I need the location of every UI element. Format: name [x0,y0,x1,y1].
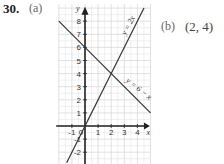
line-graph: -101234-2-112345678xyy = 2xy = 6 − x [0,0,224,164]
x-tick-label: 3 [122,128,127,137]
y-axis-label: y [75,4,80,13]
y-tick-label: 5 [77,57,82,66]
series-label-y-6-minus-x: y = 6 − x [124,75,154,101]
y-tick-label: 3 [77,83,82,92]
y-tick-label: -2 [74,148,82,157]
x-axis-label: x [146,128,151,137]
x-tick-label: 1 [96,128,101,137]
y-tick-label: 2 [77,96,82,105]
y-tick-label: 4 [77,70,82,79]
y-tick-label: 6 [77,43,82,52]
y-tick-label: 1 [77,109,82,118]
x-tick-label: 2 [109,128,114,137]
y-tick-label: 8 [77,17,82,26]
y-tick-label: 7 [77,30,82,39]
x-tick-label: 4 [135,128,140,137]
series-label-y-2x: y = 2x [119,14,137,38]
